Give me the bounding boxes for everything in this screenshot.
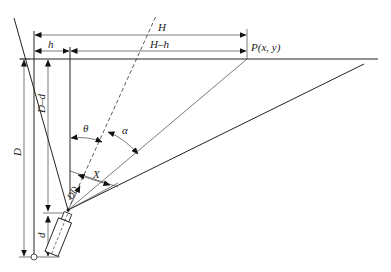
optical-axis-dashed <box>68 16 156 210</box>
label-point-P: P(x, y) <box>250 41 281 54</box>
label-h: h <box>48 38 54 50</box>
pivot-circle <box>31 254 37 260</box>
steep-boundary-line <box>14 18 68 210</box>
theta-arc <box>71 138 102 143</box>
label-theta: θ <box>83 122 89 134</box>
label-H: H <box>157 21 167 33</box>
sensor-body <box>45 207 76 257</box>
label-D-minus-d: D–d <box>35 94 47 114</box>
diagram-svg: H h H–h P(x, y) D D–d d θ α X DD <box>0 0 391 272</box>
sensor-apex <box>67 209 70 212</box>
label-alpha: α <box>122 124 128 136</box>
label-X: X <box>92 168 101 180</box>
label-d: d <box>35 232 47 238</box>
label-DD: DD <box>64 184 80 201</box>
label-D: D <box>11 148 23 157</box>
geometry-diagram: H h H–h P(x, y) D D–d d θ α X DD <box>0 0 391 272</box>
label-H-minus-h: H–h <box>149 38 169 50</box>
lower-fov-line <box>68 64 364 210</box>
